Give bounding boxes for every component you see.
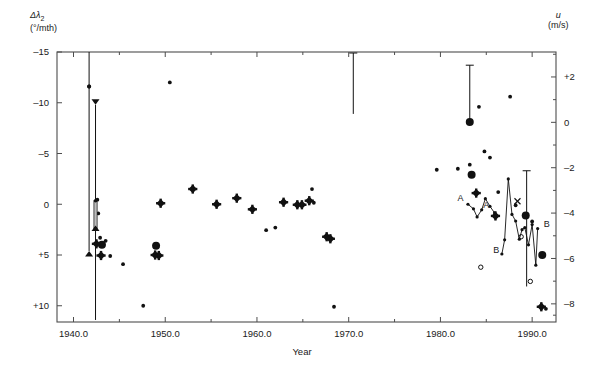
curve-B-point — [503, 238, 506, 241]
data-point-dot-small — [483, 150, 487, 154]
y-tick-label-left-5: +10 — [33, 300, 49, 311]
x-tick-label-1: 1950.0 — [151, 328, 180, 339]
y-tick-label-left-0: –15 — [33, 46, 49, 57]
data-point-circle-open — [479, 265, 483, 269]
data-point-dot-small — [98, 236, 102, 240]
x-tick-label-4: 1980.0 — [426, 328, 455, 339]
y-tick-label-right-0: +2 — [564, 71, 575, 82]
curve-A-point — [466, 203, 469, 206]
data-point-dot-large — [522, 211, 530, 219]
curve-A — [468, 199, 495, 217]
curve-label-A-0: A — [458, 193, 464, 203]
data-point-dot-small — [141, 304, 145, 308]
y-tick-label-right-5: –8 — [564, 298, 575, 309]
data-point-dot-small — [108, 254, 112, 258]
curve-B-point — [507, 177, 510, 180]
curve-label-B-1: B — [544, 219, 550, 229]
data-point-dot-small — [508, 95, 512, 99]
data-point-dot-small — [310, 187, 314, 191]
arrow-head-down — [85, 251, 93, 256]
data-point-dot-large — [98, 241, 106, 249]
curve-A-point — [476, 215, 479, 218]
curve-A-point — [472, 207, 475, 210]
data-point-diamond — [248, 205, 257, 214]
y-tick-label-right-1: 0 — [564, 117, 569, 128]
data-point-dot-small — [496, 190, 500, 194]
y-tick-label-left-4: +5 — [38, 249, 49, 260]
data-point-dot-small — [264, 228, 268, 232]
data-point-diamond — [188, 184, 197, 193]
data-point-dot-small — [544, 307, 548, 311]
curve-B-point — [527, 243, 530, 246]
data-point-dot-small — [468, 163, 472, 167]
data-point-diamond — [472, 188, 481, 197]
data-point-dot-small — [435, 168, 439, 172]
data-point-dot-large — [152, 242, 160, 250]
arrow-head-up — [92, 99, 100, 105]
y-tick-label-right-4: –6 — [564, 253, 575, 264]
data-point-dot-small — [312, 201, 316, 205]
data-point-diamond — [96, 251, 105, 260]
figure-container: Δλ2 (°/mth) u (m/s) Year 1940.01950.0196… — [0, 0, 604, 370]
data-point-dot-small — [477, 105, 481, 109]
data-point-dot-small — [273, 226, 277, 230]
data-point-dot-small — [456, 167, 460, 171]
data-point-dot-small — [488, 156, 492, 160]
curve-A-point — [493, 211, 496, 214]
curve-B-point — [510, 213, 513, 216]
errorbar-value-dot — [87, 85, 91, 89]
data-point-diamond — [232, 194, 241, 203]
curve-B-point — [518, 238, 521, 241]
y-tick-label-left-2: –5 — [38, 148, 49, 159]
curve-B-point — [536, 227, 539, 230]
curve-B-point — [520, 228, 523, 231]
data-point-dot-small — [121, 262, 125, 266]
inner-range-top-dot — [94, 199, 98, 203]
curve-B-point — [534, 264, 537, 267]
y-tick-label-right-2: –2 — [564, 162, 575, 173]
curve-B-point — [500, 252, 503, 255]
data-point-x — [514, 198, 520, 204]
data-point-diamond — [212, 200, 221, 209]
x-tick-label-3: 1970.0 — [334, 328, 363, 339]
y-tick-label-left-3: 0 — [44, 199, 49, 210]
data-point-circle-open — [528, 279, 532, 283]
x-tick-label-5: 1990.0 — [518, 328, 547, 339]
y-tick-label-right-3: –4 — [564, 207, 575, 218]
x-tick-label-0: 1940.0 — [59, 328, 88, 339]
data-point-dot-small — [168, 81, 172, 85]
data-point-diamond — [156, 199, 165, 208]
data-point-dot-large — [468, 171, 476, 179]
data-point-dot-small — [332, 305, 336, 309]
curve-label-A-1: A — [483, 200, 489, 210]
plot-svg: 1940.01950.01960.01970.01980.01990.0–15–… — [0, 0, 604, 370]
data-point-dot-large — [538, 251, 546, 259]
data-point-diamond — [279, 198, 288, 207]
inner-arrow-down — [92, 226, 100, 232]
x-tick-label-2: 1960.0 — [242, 328, 271, 339]
y-tick-label-left-1: –10 — [33, 97, 49, 108]
data-point-dot-small — [530, 220, 534, 224]
curve-B-point — [514, 219, 517, 222]
plot-frame — [57, 52, 556, 322]
curve-B-point — [523, 226, 526, 229]
curve-B-point — [531, 223, 534, 226]
curve-label-B-0: B — [493, 245, 499, 255]
inner-range-bar — [94, 201, 97, 229]
